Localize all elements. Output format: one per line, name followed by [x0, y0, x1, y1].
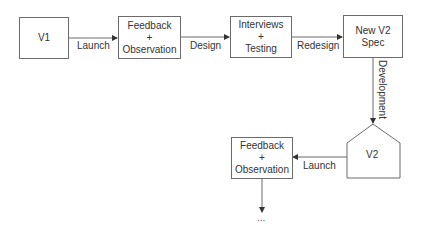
- feedback-observation-node-2: Feedback + Observation: [231, 137, 293, 179]
- design-label: Design: [190, 40, 221, 51]
- v1-node: V1: [19, 17, 69, 59]
- interviews-line1: Interviews: [238, 19, 283, 31]
- launch-label-2: Launch: [303, 160, 336, 171]
- redesign-label: Redesign: [297, 40, 339, 51]
- feedback2-line3: Observation: [235, 164, 289, 176]
- feedback-observation-node-1: Feedback + Observation: [118, 16, 181, 59]
- feedback2-line1: Feedback: [240, 140, 284, 152]
- v2-label: V2: [366, 149, 378, 160]
- feedback1-line1: Feedback: [128, 20, 172, 32]
- continuation-ellipsis: ...: [257, 212, 265, 223]
- interviews-line3: Testing: [245, 43, 277, 55]
- launch-label-1: Launch: [77, 40, 110, 51]
- interviews-line2: +: [258, 31, 264, 43]
- spec-line2: Spec: [362, 37, 385, 49]
- feedback2-line2: +: [259, 152, 265, 164]
- spec-line1: New V2: [355, 25, 390, 37]
- feedback1-line2: +: [147, 32, 153, 44]
- interviews-testing-node: Interviews + Testing: [230, 16, 292, 58]
- development-label: Development: [377, 60, 388, 119]
- v1-label: V1: [38, 32, 50, 44]
- new-v2-spec-node: New V2 Spec: [343, 15, 403, 58]
- feedback1-line3: Observation: [123, 44, 177, 56]
